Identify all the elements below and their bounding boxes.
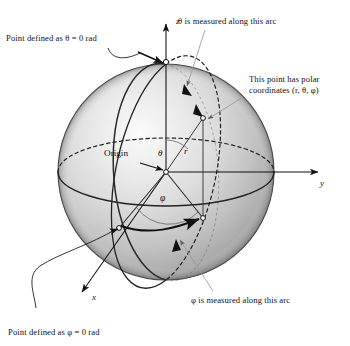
symbol-r: r [184, 146, 188, 156]
label-theta-zero-point: Point defined as θ = 0 rad [6, 33, 97, 44]
spherical-coordinates-diagram [0, 0, 350, 346]
label-phi-zero-point: Point defined as φ = 0 rad [8, 327, 100, 338]
label-point-polar-line2: coordinates (r, θ, φ) [249, 85, 319, 96]
leader-theta-zero [108, 48, 163, 63]
label-point-polar-line1: This point has polar [249, 74, 320, 85]
symbol-phi: φ [160, 192, 165, 203]
symbol-theta: θ [158, 148, 162, 158]
label-origin: Origin [104, 148, 128, 158]
figure-canvas: Point defined as θ = 0 rad Point defined… [0, 0, 350, 346]
axis-label-y: y [320, 178, 324, 188]
axis-label-z: z [176, 16, 180, 26]
label-phi-measured-arc: φ is measured along this arc [191, 295, 290, 306]
label-theta-measured-arc: θ is measured along this arc [178, 16, 276, 27]
axis-label-x: x [92, 292, 96, 302]
